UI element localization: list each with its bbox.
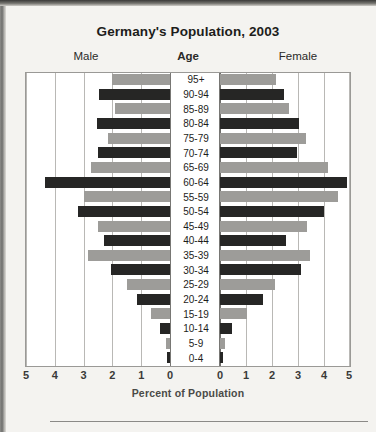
age-label-55-59: 55-59 xyxy=(171,192,221,204)
x-tick-male-3: 3 xyxy=(74,369,94,381)
bar-male-50-54 xyxy=(78,206,170,217)
bar-male-35-39 xyxy=(88,250,170,261)
x-tick-female-1: 1 xyxy=(236,369,256,381)
age-label-90-94: 90-94 xyxy=(171,89,221,101)
bar-female-65-69 xyxy=(220,162,328,173)
bar-female-30-34 xyxy=(220,264,301,275)
figure-sheet: Germany's Population, 2003 Male Age Fema… xyxy=(6,6,376,432)
bar-male-30-34 xyxy=(111,264,170,275)
bar-female-10-14 xyxy=(220,323,232,334)
age-label-50-54: 50-54 xyxy=(171,206,221,218)
bar-male-70-74 xyxy=(98,147,170,158)
age-label-20-24: 20-24 xyxy=(171,294,221,306)
bar-male-10-14 xyxy=(160,323,170,334)
bar-female-70-74 xyxy=(220,147,297,158)
bar-male-15-19 xyxy=(151,308,170,319)
bar-female-25-29 xyxy=(220,279,275,290)
bar-male-80-84 xyxy=(97,118,170,129)
x-tick-female-0: 0 xyxy=(210,369,230,381)
age-label-0-4: 0-4 xyxy=(171,353,221,365)
age-label-95+: 95+ xyxy=(171,74,221,86)
age-label-column: 95+90-9485-8980-8475-7970-7465-6960-6455… xyxy=(170,73,220,366)
age-label-35-39: 35-39 xyxy=(171,250,221,262)
x-tick-male-5: 5 xyxy=(16,369,36,381)
x-tick-female-2: 2 xyxy=(262,369,282,381)
x-tick-female-4: 4 xyxy=(314,369,334,381)
age-label-15-19: 15-19 xyxy=(171,309,221,321)
bar-male-20-24 xyxy=(137,294,170,305)
x-tick-male-4: 4 xyxy=(45,369,65,381)
bar-female-95+ xyxy=(220,74,276,85)
age-label-40-44: 40-44 xyxy=(171,235,221,247)
bar-female-45-49 xyxy=(220,221,307,232)
bar-female-50-54 xyxy=(220,206,324,217)
bar-female-55-59 xyxy=(220,191,338,202)
age-label-5-9: 5-9 xyxy=(171,338,221,350)
age-label-85-89: 85-89 xyxy=(171,104,221,116)
bar-male-75-79 xyxy=(108,133,170,144)
age-label-30-34: 30-34 xyxy=(171,265,221,277)
age-label-70-74: 70-74 xyxy=(171,148,221,160)
x-axis-ticks: 543210012345 xyxy=(25,369,351,385)
age-label-10-14: 10-14 xyxy=(171,323,221,335)
bar-female-75-79 xyxy=(220,133,306,144)
bar-female-90-94 xyxy=(220,89,284,100)
age-label-65-69: 65-69 xyxy=(171,162,221,174)
x-tick-male-0: 0 xyxy=(160,369,180,381)
bottom-rule xyxy=(50,421,368,422)
age-label-80-84: 80-84 xyxy=(171,118,221,130)
bar-male-90-94 xyxy=(99,89,170,100)
age-label-25-29: 25-29 xyxy=(171,279,221,291)
bar-male-60-64 xyxy=(45,177,170,188)
bar-female-40-44 xyxy=(220,235,286,246)
age-label-75-79: 75-79 xyxy=(171,133,221,145)
bar-male-95+ xyxy=(112,74,170,85)
female-side-caption: Female xyxy=(268,50,328,62)
x-tick-female-3: 3 xyxy=(288,369,308,381)
bar-male-85-89 xyxy=(115,103,170,114)
male-side-caption: Male xyxy=(56,50,116,62)
bar-female-85-89 xyxy=(220,103,289,114)
bar-male-65-69 xyxy=(91,162,170,173)
bar-female-20-24 xyxy=(220,294,263,305)
bar-male-55-59 xyxy=(84,191,170,202)
bar-male-25-29 xyxy=(127,279,170,290)
age-label-45-49: 45-49 xyxy=(171,221,221,233)
age-label-60-64: 60-64 xyxy=(171,177,221,189)
x-tick-female-5: 5 xyxy=(339,369,359,381)
bar-female-60-64 xyxy=(220,177,347,188)
bar-female-80-84 xyxy=(220,118,299,129)
page-title: Germany's Population, 2003 xyxy=(6,24,370,39)
bar-male-45-49 xyxy=(98,221,170,232)
x-axis-title: Percent of Population xyxy=(25,387,351,399)
age-column-caption: Age xyxy=(163,50,213,62)
x-tick-male-2: 2 xyxy=(102,369,122,381)
bar-female-15-19 xyxy=(220,308,247,319)
x-tick-male-1: 1 xyxy=(131,369,151,381)
population-pyramid-plot: 95+90-9485-8980-8475-7970-7465-6960-6455… xyxy=(25,72,351,367)
bar-male-40-44 xyxy=(104,235,170,246)
bar-female-35-39 xyxy=(220,250,310,261)
